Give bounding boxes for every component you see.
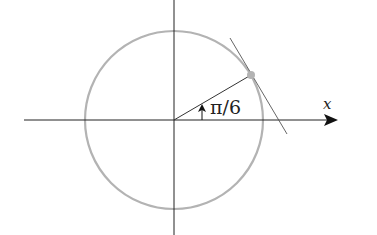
angle-label: π/6 (210, 96, 241, 118)
tangent-point (247, 71, 255, 79)
diagram-canvas: π/6 x (0, 0, 377, 235)
x-axis-label: x (323, 95, 332, 113)
